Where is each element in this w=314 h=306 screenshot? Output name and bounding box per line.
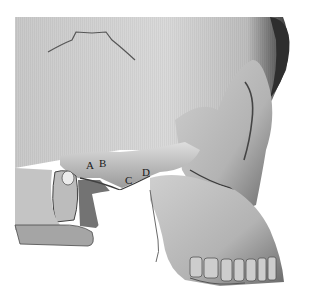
- skull-illustration: [0, 0, 314, 306]
- landmark-label-b: B: [99, 158, 106, 169]
- landmark-label-c: C: [125, 175, 132, 186]
- landmark-label-d: D: [142, 167, 150, 178]
- mastoid-base: [15, 225, 93, 246]
- skull-render-figure: A B C D: [0, 0, 314, 306]
- landmark-label-a: A: [86, 160, 94, 171]
